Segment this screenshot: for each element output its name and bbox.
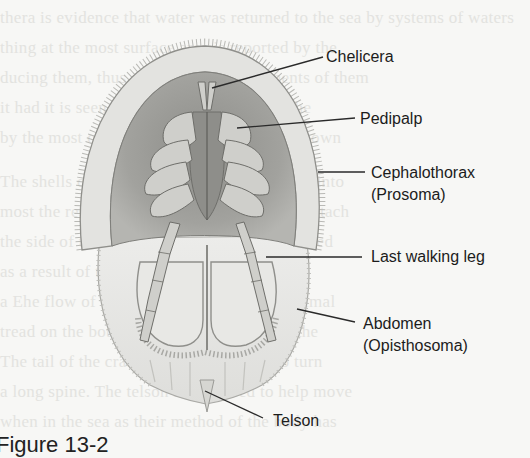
label-chelicera: Chelicera [326, 46, 394, 68]
label-pedipalp: Pedipalp [360, 108, 422, 130]
label-cephalothorax-text: Cephalothorax [371, 162, 475, 184]
leader-line-abdomen [297, 309, 355, 322]
label-last-walking-leg: Last walking leg [371, 246, 485, 268]
label-abdomen-subtext: (Opisthosoma) [363, 335, 468, 357]
label-abdomen: Abdomen (Opisthosoma) [363, 313, 468, 357]
label-cephalothorax-subtext: (Prosoma) [371, 184, 475, 206]
label-chelicera-text: Chelicera [326, 48, 394, 65]
label-last-walking-leg-text: Last walking leg [371, 248, 485, 265]
label-pedipalp-text: Pedipalp [360, 110, 422, 127]
label-abdomen-text: Abdomen [363, 313, 468, 335]
label-telson-text: Telson [273, 412, 319, 429]
abdomen-shape [98, 236, 309, 404]
figure-caption: Figure 13-2 [0, 432, 109, 458]
label-cephalothorax: Cephalothorax (Prosoma) [371, 162, 475, 206]
label-telson: Telson [273, 410, 319, 432]
